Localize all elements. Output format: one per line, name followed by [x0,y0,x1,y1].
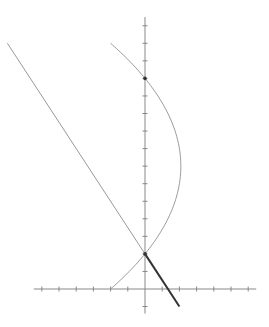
curves [7,43,180,306]
diagram-canvas [0,0,269,327]
secant-line [7,43,145,254]
intersection-point [143,77,147,81]
highlighted-segment [145,254,179,307]
intersection-point [143,252,147,256]
coordinate-plot [0,0,269,327]
axes [34,17,256,314]
